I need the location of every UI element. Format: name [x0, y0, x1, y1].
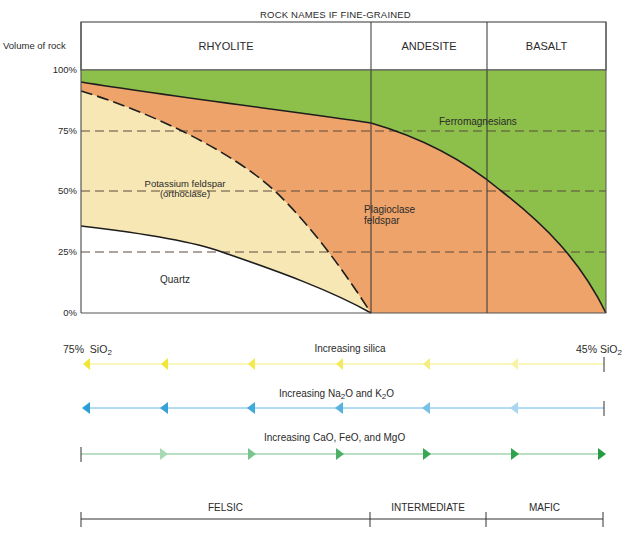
silica-trend-arrow	[83, 357, 604, 372]
label-quartz: Quartz	[160, 274, 190, 285]
y-tick-75: 75%	[17, 125, 77, 136]
diagram-title: ROCK NAMES IF FINE-GRAINED	[260, 9, 411, 20]
label-ferromagnesians: Ferromagnesians	[439, 116, 517, 127]
y-tick-50: 50%	[17, 185, 77, 196]
y-tick-25: 25%	[17, 246, 77, 257]
y-axis-title: Volume of rock	[3, 40, 66, 51]
cafemg-trend-label: Increasing CaO, FeO, and MgO	[264, 432, 405, 443]
alkali-trend-arrow	[82, 401, 604, 416]
label-plagioclase-line1: Plagioclase	[364, 204, 415, 215]
y-tick-100: 100%	[17, 64, 77, 75]
rock-composition-diagram	[0, 0, 635, 538]
silica-right-label: 45% SiO2	[576, 343, 622, 355]
scale-intermediate: INTERMEDIATE	[370, 502, 486, 513]
silica-trend-label: Increasing silica	[270, 343, 430, 354]
alkali-trend-label: Increasing Na2O and K2O	[279, 388, 394, 399]
composition-scale-bar	[81, 512, 603, 527]
rock-name-basalt: BASALT	[487, 40, 606, 52]
y-tick-0: 0%	[17, 307, 77, 318]
scale-felsic: FELSIC	[81, 502, 370, 513]
scale-mafic: MAFIC	[486, 502, 603, 513]
label-potassium-line2: (orthoclase)	[120, 188, 250, 199]
cafemg-trend-arrow	[81, 447, 606, 462]
silica-left-label: 75% SiO2	[63, 343, 112, 355]
rock-name-andesite: ANDESITE	[371, 40, 487, 52]
rock-name-rhyolite: RHYOLITE	[81, 40, 371, 52]
label-plagioclase-line2: feldspar	[364, 215, 400, 226]
